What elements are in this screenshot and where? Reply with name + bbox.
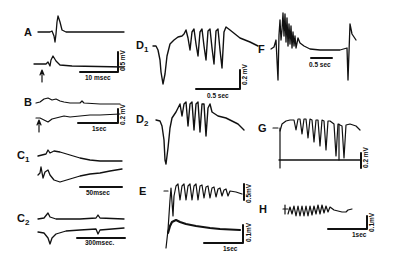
panel-label-d1-sub: 1 xyxy=(144,45,148,54)
figure-traces xyxy=(0,0,395,268)
panel-d2-traces xyxy=(156,102,244,164)
panel-label-c1-main: C xyxy=(17,149,25,161)
scale-a-amp: 0.5 mV xyxy=(120,50,127,71)
panel-e-traces xyxy=(164,184,244,248)
panel-label-c2-main: C xyxy=(17,212,25,224)
scale-e-time: 1sec xyxy=(223,246,237,253)
scale-g-amp: 0.2 mV xyxy=(363,147,370,168)
panel-label-d2: D2 xyxy=(136,114,148,128)
panel-label-e: E xyxy=(139,186,146,197)
scale-f-time: 0.5 sec xyxy=(309,62,331,69)
panel-label-a: A xyxy=(24,27,32,38)
panel-label-c1: C1 xyxy=(17,150,29,164)
panel-label-f: F xyxy=(258,44,265,55)
panel-label-d2-main: D xyxy=(136,113,144,125)
scale-b-amp: 0.2 mV xyxy=(120,104,127,125)
scale-a-time: 10 msec xyxy=(85,75,111,82)
panel-label-d2-sub: 2 xyxy=(144,119,148,128)
panel-label-d1: D1 xyxy=(136,40,148,54)
panel-label-c1-sub: 1 xyxy=(25,155,29,164)
scale-e-amp-top: 0.5mV xyxy=(246,184,253,203)
scale-d1-amp: 0.2 mV xyxy=(242,64,249,85)
scale-e-amp-bottom: 0.1mV xyxy=(246,223,253,242)
scale-c2-time: 300msec. xyxy=(85,240,114,247)
panel-h-traces xyxy=(283,205,367,229)
panel-label-d1-main: D xyxy=(136,39,144,51)
panel-label-c2: C2 xyxy=(17,213,29,227)
panel-label-c2-sub: 2 xyxy=(25,218,29,227)
panel-label-h: H xyxy=(259,204,267,215)
scale-h-amp: 0.1mV xyxy=(369,213,376,232)
panel-label-b: B xyxy=(24,97,32,108)
scale-c1-time: 50msec xyxy=(86,190,110,197)
panel-label-g: G xyxy=(258,123,267,134)
scale-b-time: 1sec xyxy=(92,126,106,133)
panel-b-traces xyxy=(36,98,120,132)
scale-d1-time: 0.5 sec xyxy=(207,93,229,100)
panel-c1-traces xyxy=(38,150,122,187)
scale-h-time: 1sec xyxy=(352,232,366,239)
panel-f-traces xyxy=(271,13,356,80)
panel-g-traces xyxy=(273,119,361,168)
panel-a-traces xyxy=(34,16,124,82)
